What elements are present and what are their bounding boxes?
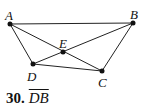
point-d <box>31 62 36 67</box>
exercise-number: 30. <box>6 90 25 106</box>
label-b: B <box>130 8 138 21</box>
label-a: A <box>5 9 13 22</box>
segment-ab <box>10 23 133 24</box>
label-c: C <box>98 76 107 89</box>
label-d: D <box>27 70 36 83</box>
segment-bc <box>102 23 133 71</box>
label-e: E <box>59 37 67 50</box>
point-c <box>100 69 105 74</box>
exercise-caption: 30.DB <box>6 91 49 106</box>
segment-dc <box>33 64 102 71</box>
segment-notation: DB <box>29 90 49 106</box>
